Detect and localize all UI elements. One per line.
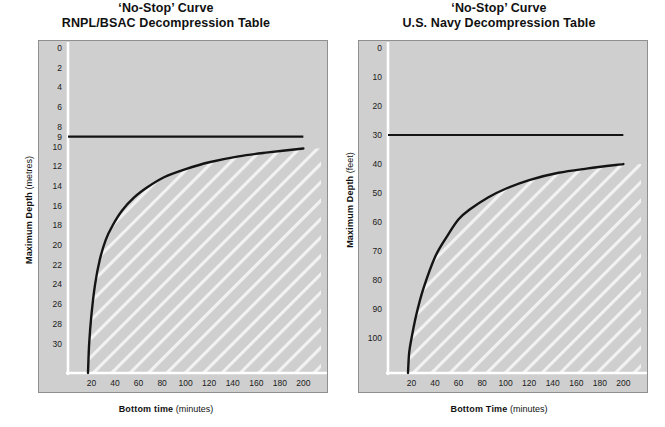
x-tick-label: 180: [593, 378, 607, 388]
y-tick-label: 9: [57, 132, 62, 142]
x-axis-title-unit: (minutes): [510, 404, 548, 414]
y-tick-label: 30: [373, 130, 383, 140]
y-tick-label: 20: [53, 240, 63, 250]
chart-title-line1: ‘No-Stop’ Curve: [0, 1, 332, 16]
plot-svg-us-navy: 0102030405060708090100204060801001201401…: [358, 40, 648, 393]
no-decompression-hatched-region: [408, 164, 641, 373]
y-tick-label: 90: [373, 304, 383, 314]
x-tick-label: 80: [477, 378, 487, 388]
plot-svg-rnpl-bsac: 0246891012141618202224262830204060801001…: [38, 40, 328, 393]
x-tick-label: 160: [569, 378, 583, 388]
y-tick-label: 24: [53, 279, 63, 289]
x-axis-title-rnpl-bsac: Bottom time (minutes): [0, 404, 332, 414]
y-tick-label: 18: [53, 220, 63, 230]
x-tick-label: 100: [499, 378, 513, 388]
y-tick-label: 0: [57, 43, 62, 53]
y-tick-label: 4: [57, 82, 62, 92]
plot-area-rnpl-bsac: 0246891012141618202224262830204060801001…: [38, 40, 328, 393]
x-tick-label: 20: [87, 378, 97, 388]
y-tick-label: 22: [53, 260, 63, 270]
y-tick-label: 80: [373, 275, 383, 285]
y-tick-label: 8: [57, 122, 62, 132]
y-tick-label: 60: [373, 217, 383, 227]
y-tick-label: 100: [368, 333, 382, 343]
y-tick-label: 6: [57, 102, 62, 112]
x-tick-label: 160: [249, 378, 263, 388]
x-tick-label: 120: [202, 378, 216, 388]
chart-figure-us-navy: ‘No-Stop’ Curve U.S. Navy Decompression …: [333, 0, 665, 427]
plot-area-us-navy: 0102030405060708090100204060801001201401…: [358, 40, 648, 393]
y-tick-label: 14: [53, 181, 63, 191]
y-tick-label: 2: [57, 63, 62, 73]
x-tick-label: 140: [226, 378, 240, 388]
x-tick-label: 200: [616, 378, 630, 388]
y-tick-label: 0: [377, 43, 382, 53]
x-axis-title-unit: (minutes): [176, 404, 214, 414]
y-axis-title-unit: (metres): [24, 156, 34, 190]
x-axis-title-us-navy: Bottom Time (minutes): [333, 404, 665, 414]
y-tick-label: 30: [53, 339, 63, 349]
x-tick-label: 180: [273, 378, 287, 388]
x-axis-title-bold: Bottom time: [119, 404, 174, 414]
x-tick-label: 80: [157, 378, 167, 388]
y-tick-label: 26: [53, 299, 63, 309]
y-tick-label: 10: [373, 72, 383, 82]
x-tick-label: 120: [522, 378, 536, 388]
x-tick-label: 60: [134, 378, 144, 388]
y-axis-title-rnpl-bsac: Maximum Depth (metres): [24, 90, 34, 330]
x-axis-title-bold: Bottom Time: [450, 404, 507, 414]
x-tick-label: 140: [546, 378, 560, 388]
y-tick-label: 40: [373, 159, 383, 169]
y-tick-label: 20: [373, 101, 383, 111]
y-tick-label: 70: [373, 246, 383, 256]
y-axis-title-unit: (feet): [345, 152, 355, 173]
y-axis-title-bold: Maximum Depth: [345, 176, 355, 248]
chart-title-line2: U.S. Navy Decompression Table: [333, 16, 665, 31]
x-tick-label: 200: [296, 378, 310, 388]
x-tick-label: 20: [407, 378, 417, 388]
x-tick-label: 40: [110, 378, 120, 388]
y-tick-label: 12: [53, 161, 63, 171]
x-tick-label: 40: [430, 378, 440, 388]
chart-title-line2: RNPL/BSAC Decompression Table: [0, 16, 332, 31]
x-tick-label: 60: [454, 378, 464, 388]
y-axis-title-us-navy: Maximum Depth (feet): [345, 80, 355, 320]
chart-figure-rnpl-bsac: ‘No-Stop’ Curve RNPL/BSAC Decompression …: [0, 0, 332, 427]
y-tick-label: 10: [53, 142, 63, 152]
y-tick-label: 50: [373, 188, 383, 198]
y-tick-label: 28: [53, 319, 63, 329]
y-tick-label: 16: [53, 201, 63, 211]
no-decompression-hatched-region: [88, 148, 321, 373]
x-tick-label: 100: [179, 378, 193, 388]
y-axis-title-bold: Maximum Depth: [24, 192, 34, 264]
chart-title-line1: ‘No-Stop’ Curve: [333, 1, 665, 16]
